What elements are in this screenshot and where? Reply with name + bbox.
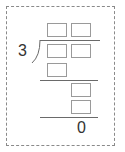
second-partial-box[interactable] [71, 83, 91, 97]
first-product-box[interactable] [47, 63, 67, 77]
second-product-box[interactable] [71, 100, 91, 114]
dividend-tens-box[interactable] [47, 44, 67, 58]
subtraction-line-1 [40, 80, 98, 81]
remainder: 0 [77, 120, 86, 136]
dividend-ones-box[interactable] [71, 44, 91, 58]
divisor: 3 [18, 43, 27, 59]
subtraction-line-2 [40, 117, 98, 118]
